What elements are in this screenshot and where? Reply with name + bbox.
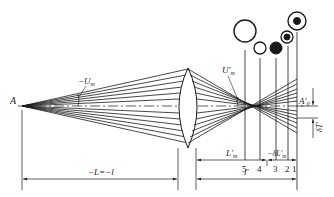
label-object-point: A: [9, 95, 17, 106]
label-image-distance: l′: [244, 167, 250, 177]
plane-number-4: 4: [257, 164, 262, 174]
spot-diagrams: [234, 12, 306, 54]
plane-number-3: 3: [273, 164, 278, 174]
object-angle-arc: [78, 94, 79, 106]
label-paraxial-image: A′0: [298, 96, 309, 107]
plane-number-2: 2: [285, 164, 290, 174]
label-object-angle: −Um: [78, 76, 96, 87]
label-image-angle: U′m: [222, 65, 235, 76]
spot-filled-dot: [270, 42, 282, 54]
spot-large-ring: [234, 20, 256, 42]
spherical-aberration-diagram: A −Um U′m A′0 δT′ 5 4 3 2 1 L′m −δL′m −L…: [0, 0, 334, 197]
label-object-distance: −L=−l: [88, 167, 114, 177]
spot-halo-dot: [284, 34, 290, 40]
label-transverse-aberration: δT′: [315, 122, 324, 132]
spot-small-ring: [254, 42, 266, 54]
plane-number-1: 1: [292, 164, 297, 174]
label-longitudinal-aberration: −δL′m: [267, 149, 286, 159]
label-marginal-distance: L′m: [225, 148, 238, 159]
spot-large-halo-dot: [294, 18, 301, 25]
